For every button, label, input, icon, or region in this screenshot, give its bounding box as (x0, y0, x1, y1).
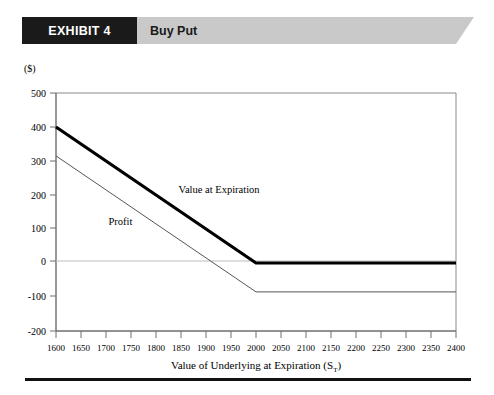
xtick-label: 1800 (147, 343, 166, 353)
xtick-label: 2350 (422, 343, 441, 353)
ytick-label: 0 (41, 256, 46, 267)
series-label-value-at-expiration: Value at Expiration (179, 184, 261, 195)
xtick-label: 2400 (447, 343, 466, 353)
series-line-profit (56, 156, 456, 292)
exhibit-number-tag: EXHIBIT 4 (22, 17, 137, 44)
xtick-label: 2150 (322, 343, 341, 353)
xtick-label: 2300 (397, 343, 416, 353)
x-axis-ticks (56, 331, 456, 338)
x-axis-tick-labels: 1600 1650 1700 1750 1800 1850 1900 1950 … (47, 343, 466, 353)
bottom-divider-rule (25, 378, 471, 381)
exhibit-banner: EXHIBIT 4 Buy Put (22, 17, 474, 44)
xtick-label: 1650 (72, 343, 91, 353)
ytick-label: 500 (31, 88, 46, 99)
xtick-label: 1600 (47, 343, 66, 353)
xtick-label: 2250 (372, 343, 391, 353)
chart-canvas: ($) 500 400 300 200 100 0 (0, 0, 494, 395)
plot-frame (56, 93, 456, 331)
xtick-label: 1700 (97, 343, 116, 353)
series-line-value-at-expiration (56, 127, 456, 263)
xtick-label: 2200 (347, 343, 366, 353)
ytick-label: 100 (31, 223, 46, 234)
y-axis-tick-labels: 500 400 300 200 100 0 -100 -200 (28, 88, 46, 337)
xtick-label: 1950 (222, 343, 241, 353)
series-label-profit: Profit (109, 216, 133, 227)
xtick-label: 1850 (172, 343, 191, 353)
xtick-label: 1900 (197, 343, 216, 353)
ytick-label: 400 (31, 122, 46, 133)
exhibit-title: Buy Put (150, 17, 197, 44)
ytick-label: 300 (31, 156, 46, 167)
y-axis-unit-label: ($) (24, 63, 36, 75)
ytick-label: -100 (28, 291, 46, 302)
x-axis-title: Value of Underlying at Expiration (ST) (171, 359, 342, 374)
xtick-label: 1750 (122, 343, 141, 353)
xtick-label: 2100 (297, 343, 316, 353)
ytick-label: -200 (28, 326, 46, 337)
ytick-label: 200 (31, 190, 46, 201)
payoff-chart: ($) 500 400 300 200 100 0 (0, 0, 494, 395)
xtick-label: 2050 (272, 343, 291, 353)
y-axis-ticks (50, 93, 56, 331)
xtick-label: 2000 (247, 343, 266, 353)
